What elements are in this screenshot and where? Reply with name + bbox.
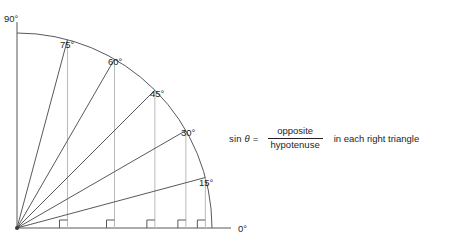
sine-ratio-fraction: opposite hypotenuse: [268, 126, 323, 151]
sine-quarter-circle-diagram: [0, 0, 454, 249]
right-angle-marker-75: [59, 220, 67, 228]
right-angle-marker-15: [197, 220, 205, 228]
fraction-denominator: hypotenuse: [268, 139, 323, 151]
angle-label-60: 60°: [108, 57, 122, 67]
origin-vertex: [15, 226, 19, 230]
angle-label-15: 15°: [199, 178, 213, 188]
angle-label-45: 45°: [150, 89, 164, 99]
right-angle-marker-30: [178, 220, 186, 228]
axis-label-0: 0°: [238, 224, 247, 234]
figure-canvas: 90° 0° 75° 60° 45° 30° 15° sin θ = oppos…: [0, 0, 454, 249]
ray-30: [17, 131, 186, 229]
ray-75: [17, 40, 67, 228]
angle-label-75: 75°: [60, 40, 74, 50]
angle-label-30: 30°: [181, 128, 195, 138]
sin-function-name: sin: [229, 133, 242, 144]
sine-formula: sin θ = opposite hypotenuse in each righ…: [229, 126, 419, 151]
formula-left-hand-side: sin θ =: [229, 133, 259, 144]
fraction-numerator: opposite: [274, 126, 316, 138]
formula-trailing-text: in each right triangle: [334, 133, 420, 144]
axis-label-90: 90°: [4, 14, 18, 24]
right-angle-marker-45: [147, 220, 155, 228]
equals-sign: =: [253, 133, 259, 144]
ray-60: [17, 59, 115, 228]
ray-45: [17, 90, 155, 228]
right-angle-marker-60: [107, 220, 115, 228]
theta-symbol: θ: [245, 133, 250, 144]
